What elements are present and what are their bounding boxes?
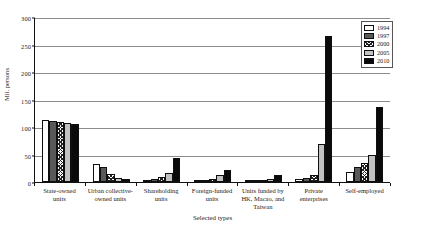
x-tick-mark [85,183,86,186]
bar [318,144,325,183]
x-tick-label: Self-employed [339,187,390,212]
bar [368,155,375,183]
bar [361,163,368,182]
legend-label: 1997 [377,33,389,39]
x-axis-title: Selected types [0,214,425,221]
bar [274,175,281,182]
legend-swatch [364,50,374,56]
bar [165,173,172,182]
bar [115,178,122,182]
legend-item: 2010 [364,57,389,65]
legend-label: 1994 [377,25,389,31]
bar [64,123,71,182]
y-tick-label: 100 [21,125,31,132]
bar [194,180,201,182]
bar [201,180,208,182]
bar [173,158,180,182]
plot-area: 050100150200250300 [34,18,390,183]
legend-swatch [364,58,374,64]
legend-label: 2005 [377,50,389,56]
bar [42,120,49,182]
y-tick-label: 200 [21,70,31,77]
legend-item: 1997 [364,32,389,40]
bar [376,107,383,182]
bar-group [289,18,340,182]
x-tick-label: Shareholdingunits [136,187,187,212]
y-tick-label: 0 [28,180,31,187]
bar [325,36,332,182]
bar [224,170,231,182]
bar [303,178,310,182]
x-tick-mark [390,183,391,186]
legend-label: 2010 [377,58,389,64]
bar-group [35,18,86,182]
bar [260,180,267,182]
x-tick-mark [187,183,188,186]
bar [107,174,114,182]
bar [57,122,64,182]
bar-group [187,18,238,182]
x-tick-label: Units funded byHK, Macao, andTaiwan [237,187,288,212]
legend-swatch [364,33,374,39]
bar [310,175,317,182]
y-axis-title: Mil. persons [3,68,10,101]
bar [267,179,274,182]
bar [158,177,165,182]
bar [209,179,216,182]
x-tick-mark [237,183,238,186]
bar-group [136,18,187,182]
bar [151,179,158,182]
bar [71,124,78,182]
bar [49,121,56,182]
bar-group [238,18,289,182]
legend-swatch [364,41,374,47]
x-axis-ticks [34,183,390,184]
x-tick-mark [136,183,137,186]
bar [100,167,107,182]
x-tick-label: Privateenterprises [288,187,339,212]
legend-label: 2000 [377,41,389,47]
bar [252,180,259,182]
y-tick-label: 300 [21,15,31,22]
bar [93,164,100,182]
bar [143,180,150,182]
bar [122,179,129,182]
bar [354,167,361,182]
legend: 19941997200020052010 [361,21,393,68]
bar-chart: Mil. persons 050100150200250300 State-ow… [0,0,425,237]
x-tick-label: Urban collective-owned units [85,187,136,212]
y-tick-label: 50 [24,152,31,159]
legend-item: 2000 [364,40,389,48]
x-tick-mark [288,183,289,186]
x-tick-mark [34,183,35,186]
bar [346,172,353,182]
x-tick-mark [339,183,340,186]
y-tick-label: 250 [21,42,31,49]
y-tick-label: 150 [21,97,31,104]
bar [295,179,302,182]
legend-item: 2005 [364,49,389,57]
x-tick-label: State-ownedunits [34,187,85,212]
bar-groups [35,18,390,182]
bar [216,175,223,182]
bar-group [86,18,137,182]
legend-item: 1994 [364,24,389,32]
bar [245,180,252,182]
x-axis-labels: State-ownedunitsUrban collective-owned u… [34,187,390,212]
legend-swatch [364,25,374,31]
x-tick-label: Foreign-fundedunits [187,187,238,212]
